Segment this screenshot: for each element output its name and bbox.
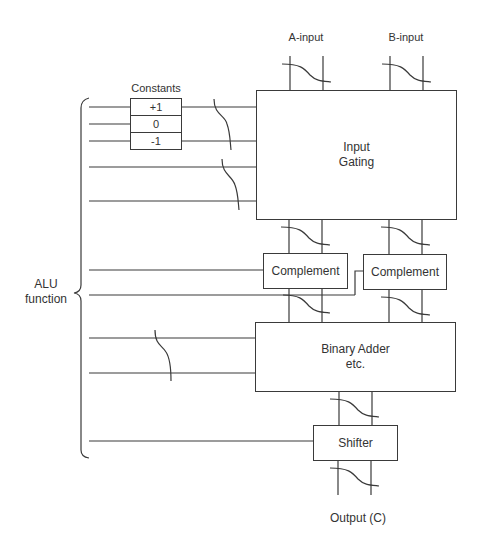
constant-zero: 0 xyxy=(130,115,182,133)
binary-adder-line2: etc. xyxy=(346,357,365,372)
complement-b-block: Complement xyxy=(363,254,447,290)
constants-title: Constants xyxy=(124,81,188,96)
alu-function-label: ALU function xyxy=(18,277,74,307)
alu-diagram: A-input B-input Constants +1 0 -1 Input … xyxy=(0,0,480,557)
alu-function-line2: function xyxy=(18,292,74,307)
alu-function-line1: ALU xyxy=(18,277,74,292)
constant-plus-one: +1 xyxy=(130,98,182,116)
output-label: Output (C) xyxy=(318,511,398,526)
a-input-label: A-input xyxy=(278,30,334,45)
binary-adder-line1: Binary Adder xyxy=(321,342,390,357)
b-input-label: B-input xyxy=(378,30,434,45)
input-gating-line2: Gating xyxy=(339,155,374,170)
alu-function-brace xyxy=(74,98,89,458)
complement-a-block: Complement xyxy=(263,253,348,289)
constant-minus-one: -1 xyxy=(130,132,182,150)
constants-table: +1 0 -1 xyxy=(130,98,182,151)
input-gating-block: Input Gating xyxy=(256,90,457,220)
binary-adder-block: Binary Adder etc. xyxy=(255,322,456,392)
shifter-block: Shifter xyxy=(313,425,398,461)
input-gating-line1: Input xyxy=(343,140,370,155)
